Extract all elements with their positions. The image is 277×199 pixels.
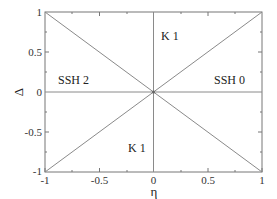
region-label-top: K 1 [161,29,179,43]
x-tick-label: -1 [40,174,49,186]
y-tick-label: 0.5 [28,46,42,58]
region-label-right: SSH 0 [214,73,245,87]
region-label-bottom: K 1 [128,141,146,155]
origin-point [152,91,155,94]
y-tick-label: -0.5 [25,126,43,138]
x-tick-label: 1 [259,174,265,186]
y-tick-label: 1 [37,6,43,18]
region-label-left: SSH 2 [58,73,89,87]
phase-diagram: 1 0.5 0 -0.5 -1 -1 -0.5 0 0.5 1 η Δ K 1 … [0,0,277,199]
x-axis-title: η [151,184,158,199]
x-tick-label: -0.5 [91,174,109,186]
y-tick-label: 0 [37,86,43,98]
x-tick-label: 0.5 [201,174,215,186]
y-axis-title: Δ [11,88,26,96]
